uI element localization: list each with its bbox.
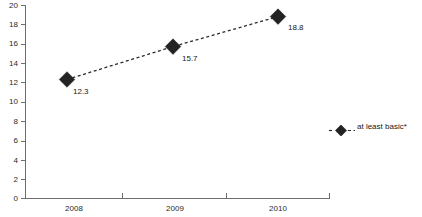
y-axis-ticks [21,6,26,199]
x-axis-label-2008: 2008 [54,205,94,213]
y-axis-label-6: 6 [2,137,18,145]
x-axis-label-2009: 2009 [155,205,195,213]
y-axis-label-12: 12 [2,79,18,87]
data-point-marker-2008 [59,72,75,88]
data-point-marker-2010 [270,9,286,25]
data-label-2008: 12.3 [73,88,89,96]
data-point-marker-2009 [165,39,181,55]
chart-legend: at least basic* [329,121,407,133]
legend-label-at-least-basic: at least basic* [357,123,407,131]
y-axis-label-16: 16 [2,40,18,48]
data-label-2010: 18.8 [288,24,304,32]
y-axis-label-4: 4 [2,157,18,165]
x-axis-ticks [123,193,330,199]
y-axis-label-2: 2 [2,176,18,184]
series-markers [59,9,286,87]
legend-marker-icon [329,125,355,136]
y-axis-label-10: 10 [2,98,18,106]
chart-plot-area [0,0,422,217]
x-axis-label-2010: 2010 [258,205,298,213]
y-axis-label-20: 20 [2,2,18,10]
y-axis-label-18: 18 [2,21,18,29]
y-axis-label-14: 14 [2,60,18,68]
data-label-2009: 15.7 [182,55,198,63]
legend-swatch-at-least-basic [329,122,355,133]
y-axis-label-8: 8 [2,118,18,126]
y-axis-label-0: 0 [2,195,18,203]
chart-container: 20 18 16 14 12 10 8 6 4 2 0 2008 2009 20… [0,0,422,217]
